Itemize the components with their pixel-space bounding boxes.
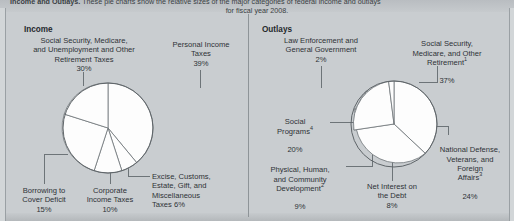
income-leader-personal-income (200, 70, 201, 88)
outlays-label-defense-value: 24% (462, 192, 477, 201)
income-pie-svg (62, 82, 154, 174)
figure-caption: Income and Outlays. These pie charts sho… (8, 0, 506, 16)
outlays-label-phcd-text: Physical, Human, and Community Developme… (270, 165, 329, 193)
outlays-label-law-enforcement: Law Enforcement and General Government 2… (258, 36, 384, 64)
income-label-excise: Excise, Customs, Estate, Gift, and Misce… (152, 172, 244, 209)
outlays-label-social-programs-text: Social Programs (277, 117, 310, 135)
outlays-label-defense: National Defense, Veterans, and Foreign … (428, 136, 512, 201)
caption-lead: Income and Outlays. (10, 0, 80, 6)
outlays-label-social-security-footnote: 1 (464, 56, 467, 62)
outlays-leader-defense-v (448, 126, 449, 135)
income-label-social-security: Social Security, Medicare, and Unemploym… (8, 36, 160, 73)
income-pie-chart (62, 82, 154, 174)
outlays-label-phcd-value: 9% (295, 202, 306, 211)
caption-line1: These pie charts show the relative sizes… (80, 0, 380, 6)
outlays-label-defense-footnote: 3 (479, 172, 482, 178)
outlays-pie-svg (350, 80, 438, 168)
panel-divider (248, 14, 249, 217)
outlays-section-title: Outlays (262, 25, 292, 34)
figure-canvas: Income and Outlays. These pie charts sho… (0, 0, 514, 221)
income-leader-excise-h (128, 176, 150, 177)
outlays-slice-social-programs (353, 81, 394, 130)
outlays-label-social-programs: Social Programs4 20% (262, 108, 328, 154)
outlays-label-net-interest: Net Interest on the Debt 8% (352, 182, 432, 210)
outlays-label-phcd: Physical, Human, and Community Developme… (256, 156, 344, 212)
scan-shade-bottom (0, 213, 514, 221)
outlays-pie-chart (350, 80, 438, 168)
income-section-title: Income (24, 25, 53, 34)
outlays-label-social-programs-value: 20% (287, 145, 302, 154)
frame-left-rule (5, 8, 6, 221)
income-leader-borrowing-v (44, 154, 45, 184)
outlays-label-social-programs-footnote: 4 (310, 125, 313, 131)
outlays-label-phcd-footnote: 2 (321, 182, 324, 188)
outlays-label-social-security-text: Social Security, Medicare, and Other Ret… (412, 39, 481, 67)
income-label-personal-income: Personal Income Taxes 39% (158, 40, 244, 68)
caption-line2: for fiscal year 2008. (8, 6, 506, 15)
outlays-label-social-security-value: 37% (439, 76, 454, 85)
income-label-corporate: Corporate Income Taxes 10% (78, 186, 142, 214)
outlays-leader-law-enforcement (321, 66, 322, 88)
outlays-label-defense-text: National Defense, Veterans, and Foreign … (440, 145, 500, 182)
outlays-label-social-security: Social Security, Medicare, and Other Ret… (392, 30, 502, 86)
income-label-borrowing: Borrowing to Cover Deficit 15% (12, 186, 76, 214)
